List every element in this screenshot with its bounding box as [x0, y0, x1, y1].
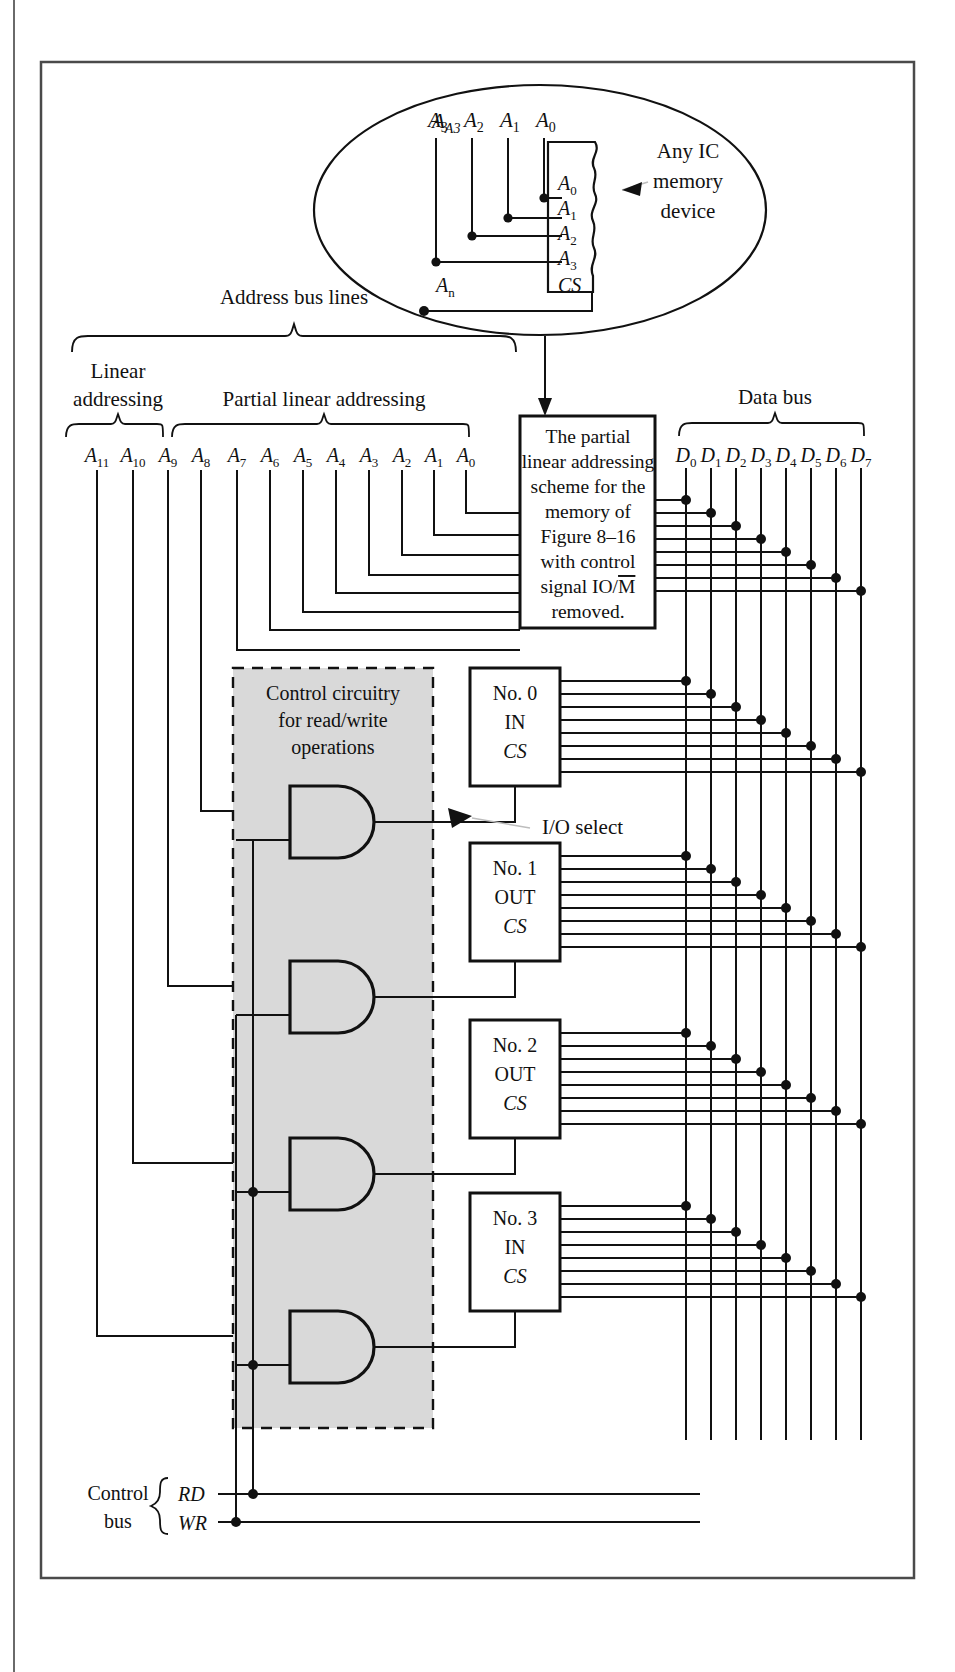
data-label-d2: D2 — [725, 444, 747, 470]
control-region-label-line-1: Control circuitry — [266, 682, 400, 705]
io-select-arrowhead — [448, 808, 472, 828]
io-device-3-cs: CS — [503, 1265, 526, 1287]
io-device-3-name: No. 3 — [493, 1207, 537, 1229]
io-device-1-name: No. 1 — [493, 857, 537, 879]
data-bus-vertical-lines — [686, 468, 861, 1440]
address-label-a7: A7 — [226, 444, 247, 470]
control-bus-rd-label: RD — [177, 1483, 205, 1505]
address-label-a1: A1 — [423, 444, 444, 470]
address-label-a2: A2 — [391, 444, 412, 470]
data-label-d0: D0 — [675, 444, 697, 470]
address-label-a10: A10 — [118, 444, 145, 470]
address-label-a0: A0 — [455, 444, 476, 470]
linear-addressing-label-line2: addressing — [73, 387, 163, 411]
address-label-a8: A8 — [190, 444, 211, 470]
chip-annotation-arrowhead — [622, 182, 642, 196]
data-label-d7: D7 — [850, 444, 872, 470]
control-bus-label-line-1: Control — [87, 1482, 149, 1504]
partial-address-routing — [237, 470, 520, 650]
io-0-data-dots — [681, 676, 866, 777]
io-device-0-direction: IN — [504, 711, 525, 733]
io-device-2-cs: CS — [503, 1092, 526, 1114]
callout-pin-wires — [436, 198, 562, 262]
address-label-a4: A4 — [325, 444, 346, 470]
callout-drop-lines — [436, 138, 544, 262]
chip-annotation: Any IC memory device — [653, 139, 723, 223]
callout-junction-dots — [431, 193, 548, 266]
figure-frame — [41, 62, 914, 1578]
memory-box-line-8: removed. — [551, 601, 624, 622]
control-region-label-line-2: for read/write — [278, 709, 388, 731]
io-device-2-name: No. 2 — [493, 1034, 537, 1056]
control-bus-lines — [218, 1494, 700, 1522]
control-bus-brace — [151, 1478, 168, 1534]
data-label-d4: D4 — [775, 444, 797, 470]
callout-to-box-arrowhead — [538, 398, 552, 416]
control-bus-label-line-2: bus — [104, 1510, 132, 1532]
data-bus-labels: D0 D1 D2 D3 D4 D5 D6 D7 — [675, 444, 872, 470]
address-label-a5: A5 — [292, 444, 313, 470]
io-2-data-dots — [681, 1028, 866, 1129]
memory-box-line-6: with control — [541, 551, 636, 572]
circuit-diagram-svg: AA3 A3 A2 A1 A0 A0 A1 A2 A3 CS An — [0, 0, 955, 1672]
wr-junction-dot — [231, 1517, 241, 1527]
chip-annotation-line-3: device — [661, 199, 716, 223]
address-line-labels: A11 A10 A9 A8 A7 A6 A5 A4 A3 A2 A1 A0 — [83, 444, 476, 470]
io-device-3-direction: IN — [504, 1236, 525, 1258]
io-select-label: I/O select — [542, 815, 623, 839]
address-label-a9: A9 — [157, 444, 178, 470]
io-device-0-cs: CS — [503, 740, 526, 762]
memory-box-line-7: signal IO/M — [541, 576, 636, 597]
memory-data-dots — [681, 495, 866, 596]
data-bus-header: Data bus — [738, 385, 812, 409]
io-3-data-dots — [681, 1201, 866, 1302]
address-bus-header: Address bus lines — [220, 285, 368, 309]
io-device-2-direction: OUT — [494, 1063, 535, 1085]
linear-addressing-label-line1: Linear — [91, 359, 146, 383]
control-bus-wr-label: WR — [178, 1512, 207, 1534]
io-1-data-dots — [681, 851, 866, 952]
linear-addressing-brace — [66, 414, 163, 437]
io-device-1-direction: OUT — [494, 886, 535, 908]
data-label-d6: D6 — [825, 444, 847, 470]
memory-box-line-4: memory of — [545, 501, 632, 522]
partial-linear-addressing-label: Partial linear addressing — [223, 387, 426, 411]
address-label-a11: A11 — [83, 444, 110, 470]
io-device-1-cs: CS — [503, 915, 526, 937]
address-bus-brace — [72, 324, 516, 352]
control-region-label-line-3: operations — [291, 736, 375, 759]
memory-box-line-2: linear addressing — [522, 451, 655, 472]
chip-annotation-line-1: Any IC — [657, 139, 719, 163]
callout-pin-label-a0: A0 — [534, 108, 556, 135]
data-label-d3: D3 — [750, 444, 772, 470]
callout-an-dot — [419, 306, 429, 316]
data-label-d1: D1 — [700, 444, 722, 470]
memory-box-line-1: The partial — [546, 426, 632, 447]
partial-linear-addressing-brace — [172, 414, 469, 437]
callout-an-label: An — [434, 274, 455, 300]
rd-junction-dot — [248, 1489, 258, 1499]
callout-label-group: A3 A2 A1 A0 — [426, 108, 556, 135]
figure-canvas: AA3 A3 A2 A1 A0 A0 A1 A2 A3 CS An — [0, 0, 955, 1672]
io-device-0-name: No. 0 — [493, 682, 537, 704]
data-label-d5: D5 — [800, 444, 822, 470]
data-bus-brace — [679, 413, 864, 436]
address-label-a6: A6 — [259, 444, 280, 470]
io-device-0: No. 0 IN CS — [440, 668, 560, 822]
memory-box-line-3: scheme for the — [531, 476, 646, 497]
callout-pin-label-a1: A1 — [498, 108, 520, 135]
chip-pin-cs: CS — [558, 274, 581, 296]
callout-pin-label-a2: A2 — [462, 108, 484, 135]
memory-box-line-5: Figure 8–16 — [541, 526, 636, 547]
address-label-a3: A3 — [358, 444, 379, 470]
chip-annotation-line-2: memory — [653, 169, 723, 193]
